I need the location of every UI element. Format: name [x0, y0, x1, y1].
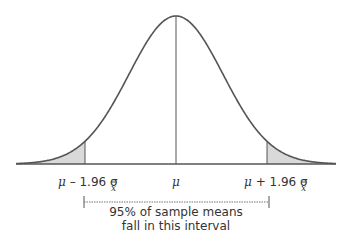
annotation-line2: fall in this interval: [122, 219, 230, 233]
lower-bound-label: μ – 1.96 σ: [58, 175, 118, 189]
upper-subscript: x: [301, 183, 306, 193]
annotation-line1: 95% of sample means: [109, 205, 243, 219]
normal-curve-diagram: μ – 1.96 σ x μ μ + 1.96 σ x 95% of sampl…: [0, 0, 352, 242]
lower-subscript: x: [111, 183, 116, 193]
mean-label: μ: [172, 175, 180, 189]
upper-bound-label: μ + 1.96 σ: [244, 175, 308, 189]
